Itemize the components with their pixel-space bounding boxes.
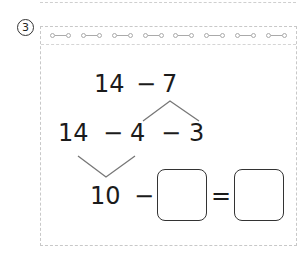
- line2-operand-a: 14: [58, 119, 89, 147]
- line2-operator-1: −: [103, 119, 123, 147]
- line3-equals: =: [211, 182, 231, 210]
- answer-box-subtrahend[interactable]: [157, 169, 207, 221]
- line2-operand-b: 4: [130, 119, 145, 147]
- line3-operator: −: [134, 182, 154, 210]
- line2-operator-2: −: [161, 119, 181, 147]
- line1-operand-b: 7: [162, 70, 177, 98]
- line1-operand-a: 14: [94, 70, 125, 98]
- answer-box-result[interactable]: [234, 169, 284, 221]
- line3-operand-a: 10: [90, 182, 121, 210]
- line1-operator: −: [136, 70, 156, 98]
- line2-operand-c: 3: [189, 119, 204, 147]
